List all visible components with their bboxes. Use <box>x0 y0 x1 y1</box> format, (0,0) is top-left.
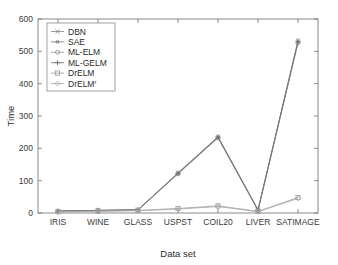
y-axis-title: Time <box>5 106 16 127</box>
legend-item-label: DBN <box>68 27 86 37</box>
x-tick-label: IRIS <box>50 217 67 227</box>
y-tick-label: 400 <box>19 79 33 89</box>
x-tick-label: USPST <box>164 217 192 227</box>
y-tick-label: 0 <box>28 208 33 218</box>
y-tick-label: 300 <box>19 111 33 121</box>
legend-item-label: ML-GELM <box>68 58 107 68</box>
y-tick-label: 100 <box>19 176 33 186</box>
legend-item-label: SAE <box>68 37 85 47</box>
legend-item-label: DrELM <box>68 68 94 78</box>
x-tick-label: WINE <box>87 217 110 227</box>
x-tick-label: SATIMAGE <box>276 217 320 227</box>
legend-item-label-superscript: r <box>94 79 96 85</box>
y-tick-label: 200 <box>19 143 33 153</box>
chart-figure: 0100200300400500600 IRISWINEGLASSUSPSTCO… <box>0 0 338 265</box>
x-tick-label: GLASS <box>124 217 153 227</box>
legend: DBNSAEML-ELMML-GELMDrELMDrELMr <box>47 23 115 91</box>
chart-svg: 0100200300400500600 IRISWINEGLASSUSPSTCO… <box>0 0 338 265</box>
x-tick-label: LIVER <box>246 217 271 227</box>
y-tick-label: 500 <box>19 46 33 56</box>
legend-item-label: ML-ELM <box>68 47 100 57</box>
x-tick-label: COIL20 <box>203 217 233 227</box>
legend-item-label: DrELMr <box>68 79 96 89</box>
y-tick-label: 600 <box>19 14 33 24</box>
x-axis-title: Data set <box>160 248 196 259</box>
